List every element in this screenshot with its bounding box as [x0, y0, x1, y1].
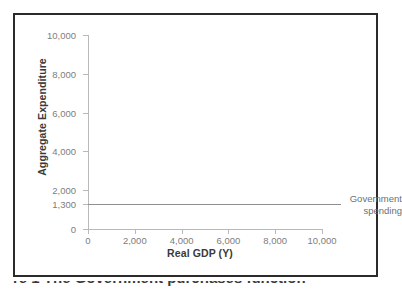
- y-tick-label-8000: 8,000: [52, 68, 76, 79]
- x-tick-6000: [228, 229, 229, 234]
- y-tick-4000: 4,000: [83, 151, 88, 152]
- x-axis-spine: [88, 229, 322, 230]
- y-tick-label-1300: 1,300: [52, 198, 76, 209]
- y-tick-10000: 10,000: [83, 35, 88, 36]
- y-axis-spine: [88, 35, 89, 229]
- y-tick-label-4000: 4,000: [52, 146, 76, 157]
- y-tick-8000: 8,000: [83, 74, 88, 75]
- figure-caption: re 1 The Government purchases function: [13, 281, 306, 286]
- x-tick-label-4000: 4,000: [170, 235, 194, 246]
- x-tick-label-0: 0: [85, 235, 90, 246]
- x-tick-4000: [182, 229, 183, 234]
- y-tick-label-6000: 6,000: [52, 107, 76, 118]
- x-axis-title: Real GDP (Y): [75, 247, 325, 259]
- y-tick-label-0: 0: [71, 224, 76, 235]
- figure-frame: Aggregate Expenditure Real GDP (Y) 0 1,3…: [13, 13, 378, 277]
- y-tick-label-2000: 2,000: [52, 185, 76, 196]
- x-tick-2000: [135, 229, 136, 234]
- x-tick-label-6000: 6,000: [217, 235, 241, 246]
- x-tick-label-8000: 8,000: [263, 235, 287, 246]
- x-tick-10000: [322, 229, 323, 234]
- annotation-line-2: spending: [324, 205, 402, 217]
- y-tick-2000: 2,000: [83, 190, 88, 191]
- y-tick-label-10000: 10,000: [47, 30, 76, 41]
- figure-caption-strip: re 1 The Government purchases function: [13, 281, 378, 293]
- annotation-government-spending: Government spending: [324, 193, 402, 217]
- x-tick-label-2000: 2,000: [123, 235, 147, 246]
- series-line-government-spending: [88, 204, 341, 205]
- plot-area: 0 1,300 2,000 4,000 6,000 8,000 10,000 0: [88, 35, 322, 229]
- annotation-line-1: Government: [324, 193, 402, 205]
- y-axis-title: Aggregate Expenditure: [36, 22, 48, 212]
- y-tick-6000: 6,000: [83, 113, 88, 114]
- x-tick-0: [88, 229, 89, 234]
- x-tick-label-10000: 10,000: [307, 235, 336, 246]
- x-tick-8000: [275, 229, 276, 234]
